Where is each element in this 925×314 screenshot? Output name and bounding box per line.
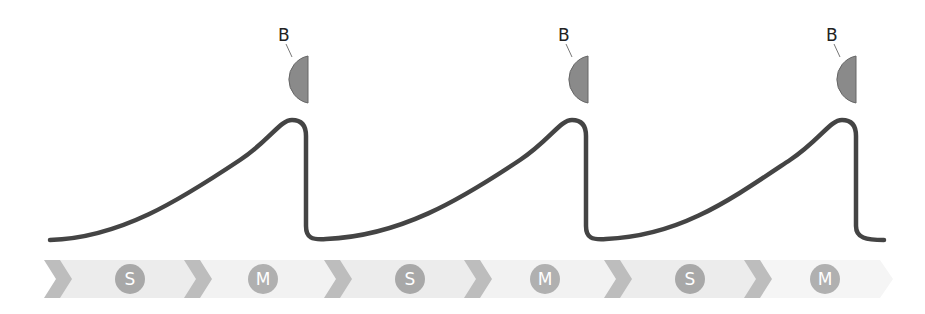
phase-m: M (530, 264, 560, 294)
phase-label: S (125, 269, 136, 289)
phase-m: M (810, 264, 840, 294)
phase-band (44, 260, 893, 298)
growth-curve (50, 120, 884, 240)
phase-label: M (818, 269, 833, 289)
phase-s: S (395, 264, 425, 294)
half-disc-icon (569, 56, 588, 103)
phase-label: M (538, 269, 553, 289)
marker-b: B (826, 25, 856, 103)
phase-label: M (256, 269, 271, 289)
marker-label: B (558, 25, 570, 45)
phase-label: S (685, 269, 696, 289)
half-disc-icon (289, 56, 308, 103)
half-disc-icon (837, 56, 856, 103)
marker-b: B (278, 25, 308, 103)
cell-cycle-diagram: S M S M S M B B B (0, 0, 925, 314)
phase-label: S (405, 269, 416, 289)
phase-s: S (675, 264, 705, 294)
marker-label: B (278, 25, 290, 45)
marker-label: B (826, 25, 838, 45)
marker-b: B (558, 25, 588, 103)
phase-s: S (115, 264, 145, 294)
phase-m: M (248, 264, 278, 294)
